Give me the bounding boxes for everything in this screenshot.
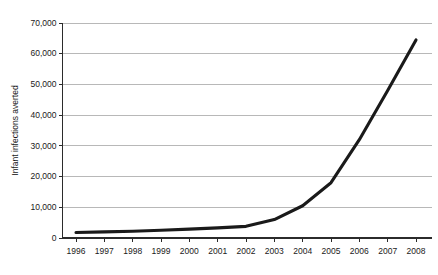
x-axis-tick-label: 1997 [95,246,114,256]
data-series-line [76,40,416,233]
y-axis-title: Infant infections averted [10,85,20,176]
x-axis-tick-label: 2008 [407,246,426,256]
y-axis-tick-label: 40,000 [31,110,57,120]
x-axis-tick-label: 2004 [293,246,312,256]
gridlines [63,23,433,207]
x-axis-tick-label: 2007 [378,246,397,256]
y-axis-tick-label: 10,000 [31,202,57,212]
chart-container: 010,00020,00030,00040,00050,00060,00070,… [0,0,438,275]
x-axis-tick-label: 2003 [265,246,284,256]
x-axis-tick-label: 2005 [322,246,341,256]
y-axis-tick-label: 30,000 [31,141,57,151]
x-axis-tick-label: 2000 [180,246,199,256]
line-chart: 010,00020,00030,00040,00050,00060,00070,… [0,0,438,275]
y-axis-tick-label: 0 [52,233,57,243]
y-axis-tick-label: 20,000 [31,171,57,181]
x-axis-tick-label: 2002 [237,246,256,256]
y-axis-tick-label: 50,000 [31,79,57,89]
x-axis-tick-label: 2001 [208,246,227,256]
y-axis-tick-label: 60,000 [31,48,57,58]
x-axis-tick-label: 1996 [67,246,86,256]
x-axis-tick-label: 2006 [350,246,369,256]
x-axis-tickmarks [76,238,416,242]
y-axis-tick-labels: 010,00020,00030,00040,00050,00060,00070,… [31,18,57,243]
x-axis-tick-label: 1999 [152,246,171,256]
x-axis-tick-label: 1998 [123,246,142,256]
x-axis-tick-labels: 1996199719981999200020012002200320042005… [67,246,426,256]
y-axis-tick-label: 70,000 [31,18,57,28]
